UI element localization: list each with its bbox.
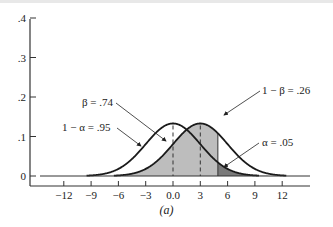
one-minus-beta-label: 1 − β = .26 <box>262 84 311 96</box>
one-minus-alpha-arrow <box>117 128 141 146</box>
y-tick-label: 0 <box>21 170 27 182</box>
beta-arrow <box>116 103 166 141</box>
power-chart: −12−9−6−30.036912 0.1.2.3.4 β = .74 1 − … <box>0 0 333 227</box>
one-minus-alpha-label: 1 − α = .95 <box>62 121 111 133</box>
x-tick-label: 9 <box>252 189 258 201</box>
alpha-label: α = .05 <box>262 136 294 148</box>
x-tick-label: −9 <box>85 189 97 201</box>
y-tick-label: .3 <box>18 52 27 64</box>
x-tick-label: 6 <box>225 189 231 201</box>
y-tick-label: .2 <box>18 91 26 103</box>
figure-caption: (a) <box>0 203 333 218</box>
y-tick-label: .1 <box>18 131 26 143</box>
x-tick-label: 0.0 <box>166 189 180 201</box>
x-tick-label: 3 <box>198 189 204 201</box>
x-tick-label: −6 <box>113 189 125 201</box>
y-ticks: 0.1.2.3.4 <box>18 12 36 182</box>
one-minus-beta-arrow <box>224 91 260 115</box>
x-tick-label: 12 <box>277 189 288 201</box>
y-tick-label: .4 <box>18 12 27 24</box>
x-ticks: −12−9−6−30.036912 <box>55 181 288 201</box>
x-tick-label: −12 <box>55 189 72 201</box>
x-tick-label: −3 <box>140 189 152 201</box>
beta-label: β = .74 <box>82 96 114 108</box>
